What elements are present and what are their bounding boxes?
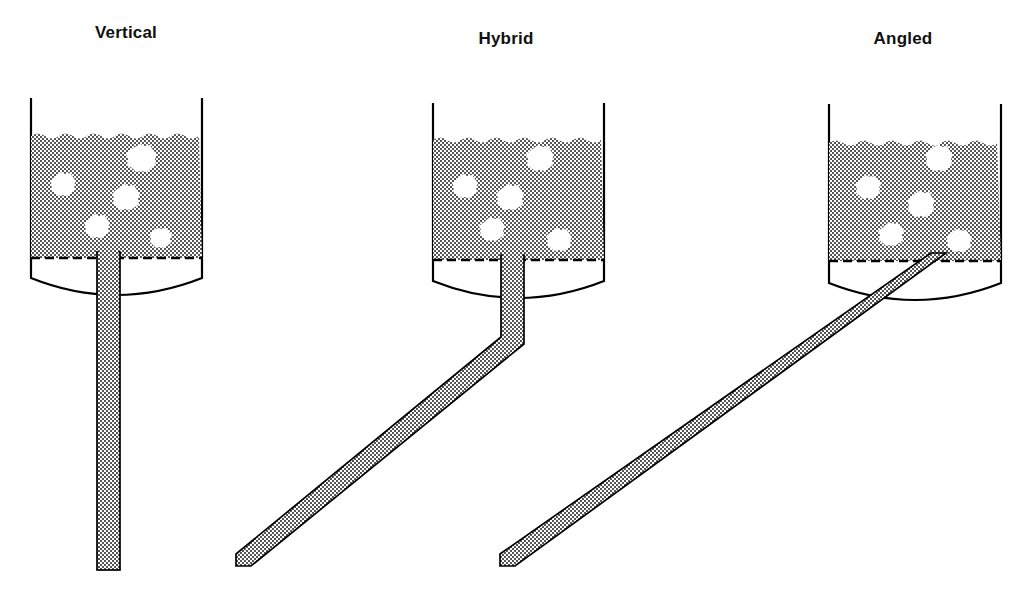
downcomer-pipe-hybrid (236, 255, 524, 566)
panel-hybrid: Hybrid (236, 29, 604, 566)
diagram-root: Vertical Hybrid (0, 0, 1032, 594)
downcomer-pipe-angled (500, 253, 946, 566)
panel-vertical: Vertical (31, 23, 202, 570)
downcomer-joint-hybrid (503, 252, 523, 264)
reactor-downcomer-configurations-figure: Vertical Hybrid (0, 0, 1032, 594)
downcomer-pipe-vertical (97, 252, 120, 570)
downcomer-joint-vertical (99, 250, 119, 262)
panel-label-vertical: Vertical (95, 23, 157, 42)
panel-label-angled: Angled (874, 29, 933, 48)
panel-label-hybrid: Hybrid (478, 29, 533, 48)
panel-angled: Angled (500, 29, 1001, 566)
